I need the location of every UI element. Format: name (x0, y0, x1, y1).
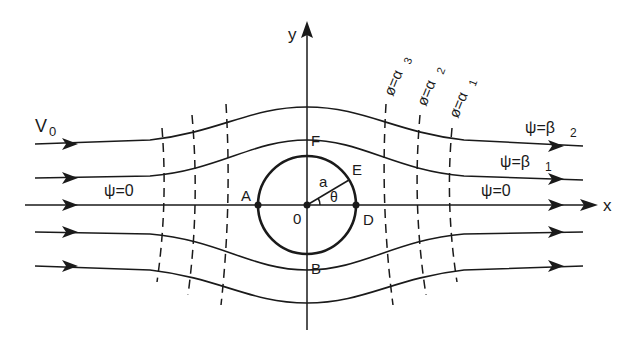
phi-alpha3-subscript: 3 (401, 56, 414, 66)
origin-label: 0 (293, 210, 301, 227)
point-D-dot (353, 202, 360, 209)
angle-label: θ (330, 189, 338, 205)
streamline-lower-1 (35, 232, 583, 270)
phi-alpha2-subscript: 2 (434, 66, 447, 76)
axes (25, 21, 598, 330)
x-axis-label: x (603, 196, 612, 215)
psi-zero-right-label: ψ=0 (481, 182, 511, 199)
freestream-symbol: V (35, 116, 47, 136)
freestream-velocity-label: V 0 (35, 116, 56, 139)
psi-beta1-text: ψ=β (500, 153, 530, 170)
radius-line (307, 180, 349, 205)
y-axis-label: y (288, 25, 297, 44)
phi-alpha1-text: ø=α (445, 89, 471, 120)
radius-label: a (319, 173, 328, 190)
labels: y x 0 A B D E F a θ V 0 ψ=0 ψ=0 ψ=β 2 ψ=… (35, 25, 612, 277)
flow-diagram: y x 0 A B D E F a θ V 0 ψ=0 ψ=0 ψ=β 2 ψ=… (0, 0, 639, 341)
psi-beta2-text: ψ=β (525, 119, 555, 136)
phi-alpha3-label: ø=α 3 (380, 53, 414, 100)
freestream-subscript: 0 (49, 124, 56, 139)
phi-alpha1-label: ø=α 1 (445, 75, 479, 122)
point-E-label: E (352, 161, 362, 178)
streamline-lower-2 (35, 266, 583, 303)
arrow-icon (548, 260, 564, 272)
psi-beta2-subscript: 2 (570, 126, 577, 140)
point-A-label: A (241, 187, 251, 204)
psi-beta1-subscript: 1 (545, 160, 552, 174)
point-F-label: F (311, 132, 320, 149)
phi-alpha2-label: ø=α 2 (413, 63, 447, 110)
point-origin-dot (304, 202, 311, 209)
angle-arc (318, 198, 320, 205)
point-A-dot (255, 202, 262, 209)
point-B-label: B (311, 260, 321, 277)
phi-alpha1-subscript: 1 (466, 78, 479, 88)
psi-beta1-label: ψ=β 1 (500, 153, 552, 174)
phi-alpha3-text: ø=α (380, 67, 406, 98)
arrow-icon (62, 138, 78, 150)
diagram-canvas: y x 0 A B D E F a θ V 0 ψ=0 ψ=0 ψ=β 2 ψ=… (0, 0, 639, 341)
arrow-icon (548, 140, 564, 152)
psi-beta2-label: ψ=β 2 (525, 119, 577, 140)
point-D-label: D (363, 211, 374, 228)
phi-alpha2-text: ø=α (413, 77, 439, 108)
arrow-icon (62, 260, 78, 272)
psi-zero-left-label: ψ=0 (104, 182, 134, 199)
